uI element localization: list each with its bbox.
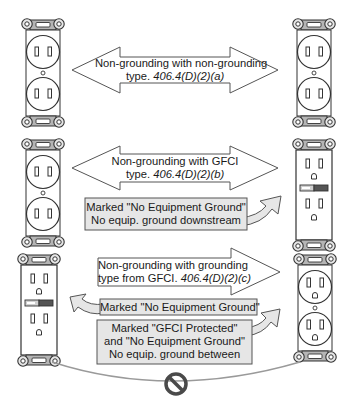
outlet-row-a-right: [293, 19, 335, 127]
gfci-row-c-left: [18, 254, 60, 366]
note-text-row-c-right: Marked "GFCI Protected" and "No Equipmen…: [97, 322, 252, 361]
outlet-row-a-left: [22, 19, 64, 127]
arrow-label-row-b: Non-grounding with GFCI type. 406.4(D)(2…: [95, 155, 255, 181]
note-line3: No equip. ground between: [109, 348, 240, 360]
note-arrow-row-c-left: [70, 294, 104, 314]
note-line1: Marked "No Equipment Ground": [100, 301, 260, 313]
note-line1: Marked "GFCI Protected": [111, 322, 237, 334]
arrow-label-row-a: Non-grounding with non-grounding type. 4…: [95, 57, 255, 83]
prohibited-icon: [166, 374, 186, 394]
code-reference: 406.4(D)(2)(b): [153, 168, 224, 180]
arrow-label-row-c: Non-grounding with grounding type from G…: [98, 259, 238, 285]
wire-row-c: [52, 362, 300, 381]
note-line1: Marked "No Equipment Ground": [86, 201, 246, 213]
arrow-label-prefix: type.: [126, 70, 153, 82]
note-line2: and "No Equipment Ground": [104, 335, 245, 347]
gfci-row-b-right: [293, 139, 335, 251]
arrow-label-prefix: type from GFCI.: [98, 272, 181, 284]
note-text-row-b: Marked "No Equipment Ground" No equip. g…: [85, 201, 247, 227]
outlet-row-c-right: [294, 254, 336, 362]
code-reference: 406.4(D)(2)(a): [153, 70, 224, 82]
arrow-label-line1: Non-grounding with non-grounding: [95, 57, 267, 69]
arrow-label-line1: Non-grounding with GFCI: [112, 155, 239, 167]
arrow-label-line1: Non-grounding with grounding: [98, 259, 248, 271]
arrow-label-prefix: type.: [126, 168, 153, 180]
outlet-row-b-left: [22, 139, 64, 247]
note-text-row-c-left: Marked "No Equipment Ground": [100, 301, 257, 314]
code-reference: 406.4(D)(2)(c): [181, 272, 251, 284]
note-line2: No equip. ground downstream: [91, 214, 241, 226]
